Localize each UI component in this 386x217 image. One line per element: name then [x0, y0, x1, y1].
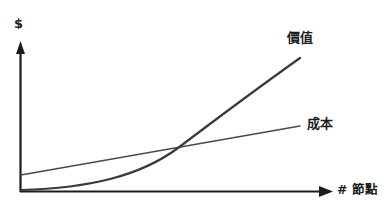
x-axis-label: # 節點 [337, 184, 378, 197]
series-line-cost [21, 126, 300, 175]
chart-figure: $ # 節點 價值 成本 [0, 0, 386, 217]
y-axis-label: $ [14, 17, 23, 30]
series-curve-value [21, 58, 300, 190]
chart-plot-area [0, 0, 386, 217]
series-label-cost: 成本 [307, 117, 333, 130]
y-axis-arrowhead [16, 41, 25, 54]
series-label-value: 價值 [287, 31, 313, 44]
x-axis-arrowhead [319, 186, 333, 197]
